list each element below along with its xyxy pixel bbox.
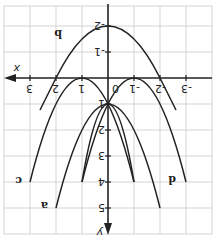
x-tick-label: 1: [78, 82, 85, 95]
curve-label-c: c: [15, 174, 22, 187]
curve-label-d: d: [168, 173, 176, 186]
y-axis-arrow-icon: [104, 223, 112, 235]
curve-label-a: a: [41, 199, 48, 212]
x-tick-label: 3: [26, 82, 33, 95]
x-tick-label: -1: [129, 82, 140, 95]
y-tick-label: 4: [98, 175, 105, 188]
y-tick-label: -2: [94, 19, 105, 32]
axes: [4, 4, 212, 235]
y-tick-label: -1: [94, 45, 105, 58]
x-tick-label: -2: [155, 82, 166, 95]
y-axis-label: y: [96, 226, 104, 239]
y-tick-label: 5: [98, 201, 105, 214]
x-axis-label: x: [13, 62, 21, 75]
curve-label-b: b: [54, 27, 62, 40]
x-tick-label: -3: [181, 82, 192, 95]
y-tick-label: 3: [98, 149, 105, 162]
y-tick-labels: -2 -1 1 2 3 4 5 y: [94, 19, 105, 239]
parabola-graph: -3 -2 -1 0 1 2 3 x -2 -1 1 2 3 4 5 y: [0, 0, 216, 241]
